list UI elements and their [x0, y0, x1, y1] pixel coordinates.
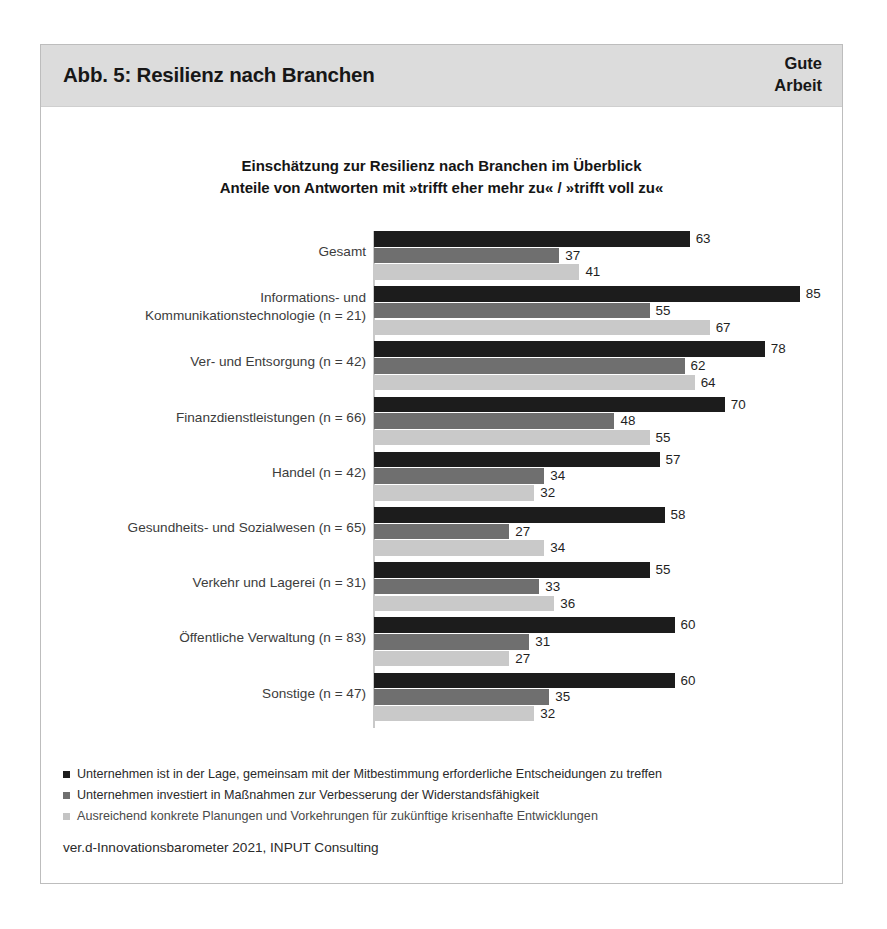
bar-series-0 [374, 452, 660, 468]
bar-group: Gesamt633741 [41, 231, 842, 286]
bar-group: Verkehr und Lagerei (n = 31)553336 [41, 562, 842, 617]
bar-set: 573432 [374, 452, 842, 507]
bar-row: 63 [374, 231, 842, 247]
bar-group: Finanzdienstleistungen (n = 66)704855 [41, 397, 842, 452]
bar-set: 786264 [374, 341, 842, 396]
bar-series-2 [374, 540, 544, 556]
bar-row: 32 [374, 485, 842, 501]
bar-set: 704855 [374, 397, 842, 452]
chart-legend: Unternehmen ist in der Lage, gemeinsam m… [63, 767, 823, 831]
bar-value-label: 85 [806, 285, 821, 302]
legend-label: Unternehmen investiert in Maßnahmen zur … [77, 788, 539, 804]
bar-series-1 [374, 468, 544, 484]
bar-row: 41 [374, 264, 842, 280]
bar-set: 553336 [374, 562, 842, 617]
bar-row: 55 [374, 562, 842, 578]
bar-row: 70 [374, 397, 842, 413]
legend-item[interactable]: Unternehmen investiert in Maßnahmen zur … [63, 788, 823, 804]
bar-group: Gesundheits- und Sozialwesen (n = 65)582… [41, 507, 842, 562]
bar-series-2 [374, 320, 710, 336]
bar-value-label: 35 [555, 688, 570, 705]
bar-value-label: 67 [716, 319, 731, 336]
bar-value-label: 48 [620, 412, 635, 429]
bar-row: 27 [374, 524, 842, 540]
bar-series-0 [374, 507, 665, 523]
legend-swatch-icon [63, 792, 70, 799]
figure-body: Einschätzung zur Resilienz nach Branchen… [41, 107, 842, 883]
category-label-line: Finanzdienstleistungen (n = 66) [66, 409, 366, 427]
bar-value-label: 34 [550, 467, 565, 484]
category-label: Gesundheits- und Sozialwesen (n = 65) [66, 519, 366, 537]
bar-value-label: 57 [666, 451, 681, 468]
bar-value-label: 64 [701, 374, 716, 391]
bar-value-label: 33 [545, 578, 560, 595]
bar-series-2 [374, 430, 650, 446]
bar-value-label: 60 [681, 616, 696, 633]
figure-container: Abb. 5: Resilienz nach Branchen Gute Arb… [40, 44, 843, 884]
figure-header-band: Abb. 5: Resilienz nach Branchen Gute Arb… [41, 45, 842, 107]
bar-series-2 [374, 375, 695, 391]
category-label-line: Handel (n = 42) [66, 464, 366, 482]
category-label: Ver- und Entsorgung (n = 42) [66, 353, 366, 371]
legend-item[interactable]: Ausreichend konkrete Planungen und Vorke… [63, 809, 823, 825]
bar-value-label: 63 [696, 230, 711, 247]
bar-group: Handel (n = 42)573432 [41, 452, 842, 507]
bar-series-0 [374, 341, 765, 357]
bar-row: 33 [374, 579, 842, 595]
category-label: Sonstige (n = 47) [66, 685, 366, 703]
bar-series-1 [374, 413, 614, 429]
brand-logo: Gute Arbeit [774, 53, 822, 97]
category-label: Finanzdienstleistungen (n = 66) [66, 409, 366, 427]
bar-group: Ver- und Entsorgung (n = 42)786264 [41, 341, 842, 396]
legend-swatch-icon [63, 771, 70, 778]
bar-value-label: 58 [671, 506, 686, 523]
bar-value-label: 62 [691, 357, 706, 374]
bar-group: Informations- undKommunikationstechnolog… [41, 286, 842, 341]
bar-row: 48 [374, 413, 842, 429]
bar-row: 31 [374, 634, 842, 650]
bar-value-label: 37 [565, 247, 580, 264]
bar-value-label: 32 [540, 705, 555, 722]
category-label: Handel (n = 42) [66, 464, 366, 482]
legend-label: Ausreichend konkrete Planungen und Vorke… [77, 809, 598, 825]
category-label: Gesamt [66, 243, 366, 261]
bar-row: 78 [374, 341, 842, 357]
bar-series-2 [374, 706, 534, 722]
bar-series-1 [374, 689, 549, 705]
bar-series-1 [374, 634, 529, 650]
category-label-line: Kommunikationstechnologie (n = 21) [66, 307, 366, 325]
bar-value-label: 27 [515, 523, 530, 540]
bar-series-2 [374, 485, 534, 501]
bar-group: Sonstige (n = 47)603532 [41, 673, 842, 728]
category-label-line: Sonstige (n = 47) [66, 685, 366, 703]
bar-row: 67 [374, 320, 842, 336]
bar-series-0 [374, 397, 725, 413]
bar-series-0 [374, 673, 675, 689]
bar-value-label: 55 [656, 302, 671, 319]
bar-series-1 [374, 358, 685, 374]
chart-title: Einschätzung zur Resilienz nach Branchen… [41, 155, 842, 199]
legend-item[interactable]: Unternehmen ist in der Lage, gemeinsam m… [63, 767, 823, 783]
brand-line-2: Arbeit [774, 76, 822, 94]
bar-series-0 [374, 617, 675, 633]
bar-series-2 [374, 651, 509, 667]
bar-series-2 [374, 264, 579, 280]
bar-row: 57 [374, 452, 842, 468]
bar-value-label: 55 [656, 561, 671, 578]
category-label: Informations- undKommunikationstechnolog… [66, 289, 366, 324]
bar-series-2 [374, 596, 554, 612]
bar-set: 582734 [374, 507, 842, 562]
bar-row: 60 [374, 617, 842, 633]
bar-value-label: 41 [585, 263, 600, 280]
bar-value-label: 36 [560, 595, 575, 612]
bar-set: 603532 [374, 673, 842, 728]
bar-row: 58 [374, 507, 842, 523]
legend-swatch-icon [63, 813, 70, 820]
bar-row: 55 [374, 430, 842, 446]
bar-series-0 [374, 562, 650, 578]
legend-label: Unternehmen ist in der Lage, gemeinsam m… [77, 767, 662, 783]
bar-set: 633741 [374, 231, 842, 286]
bar-row: 36 [374, 596, 842, 612]
bar-series-1 [374, 303, 650, 319]
category-label: Öffentliche Verwaltung (n = 83) [66, 629, 366, 647]
